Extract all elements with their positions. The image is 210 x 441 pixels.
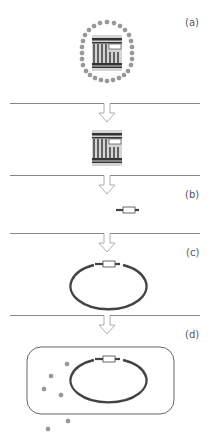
panel-a-particle	[80, 20, 134, 83]
gene-fragment-icon	[116, 207, 139, 213]
panel-label-a: (a)	[185, 17, 199, 28]
panel-label-c: (c)	[186, 247, 199, 258]
down-arrow-icon	[99, 316, 115, 335]
step-arrow-4	[10, 316, 200, 335]
step-arrow-2	[10, 176, 200, 195]
plasmid-icon	[70, 360, 146, 402]
particle-dots-icon	[42, 362, 70, 431]
down-arrow-icon	[99, 104, 115, 123]
step-arrow-1	[10, 104, 200, 123]
extracted-dna-block-icon	[92, 130, 122, 166]
panel-label-d: (d)	[185, 329, 199, 340]
cell-with-plasmid	[27, 347, 174, 431]
process-diagram	[0, 0, 210, 441]
panel-label-b: (b)	[185, 189, 199, 200]
down-arrow-icon	[99, 234, 115, 253]
step-arrow-3	[10, 234, 200, 253]
down-arrow-icon	[99, 176, 115, 195]
dna-block-icon	[92, 35, 122, 71]
cell-membrane-icon	[27, 347, 174, 414]
recombinant-plasmid-icon	[71, 261, 147, 309]
